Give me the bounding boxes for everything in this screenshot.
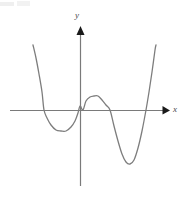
x-axis-label: x: [173, 105, 177, 114]
x-axis-arrowhead: [163, 106, 171, 115]
polynomial-curve: [33, 45, 156, 164]
graph-figure: y x: [0, 0, 186, 199]
y-axis-arrowhead: [77, 26, 85, 35]
y-axis-label: y: [75, 11, 79, 20]
coordinate-plane-svg: [0, 0, 186, 199]
